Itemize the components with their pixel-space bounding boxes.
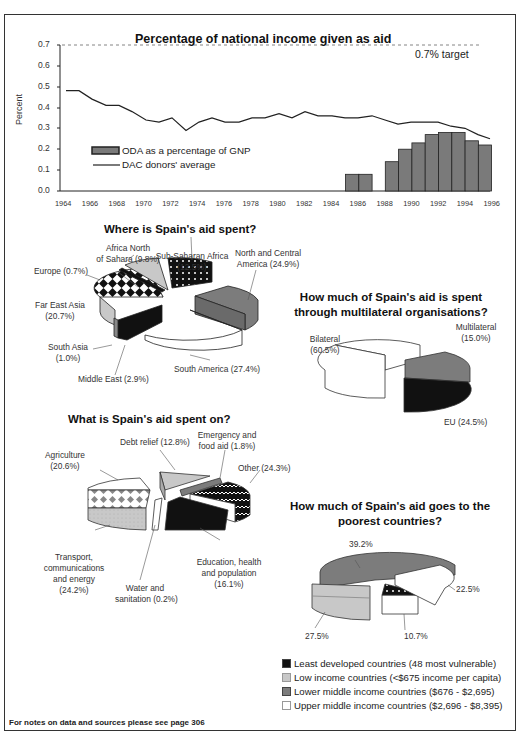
y-tick: 0.7 [38, 39, 50, 49]
label-emergency: Emergency and food aid (1.8%) [196, 430, 258, 452]
x-tick: 1980 [269, 199, 285, 208]
y-axis-label: Percent [14, 94, 24, 125]
legend-swatch [282, 659, 291, 668]
y-tick: 0.2 [38, 143, 50, 153]
x-tick: 1990 [403, 199, 419, 208]
poorest-pie [312, 552, 455, 620]
y-tick: 0.6 [38, 60, 50, 70]
label-water: Water and sanitation (0.2%) [115, 583, 175, 605]
legend-line-label: DAC donors' average [122, 159, 215, 170]
x-tick: 1974 [189, 199, 205, 208]
label-south-america: South America (27.4%) [174, 364, 260, 375]
legend-item-low-income: Low income countries (<$675 income per c… [282, 670, 503, 684]
y-tick: 0.1 [38, 164, 50, 174]
x-tick: 1986 [350, 199, 366, 208]
label-transport: Transport, communications and energy (24… [42, 552, 106, 596]
legend-bar-label: ODA as a percentage of GNP [122, 145, 251, 156]
label-eu: EU (24.5%) [444, 417, 487, 428]
legend-item-upper-middle: Upper middle income countries ($2,696 - … [282, 698, 503, 712]
legend-bar-swatch [92, 147, 119, 154]
legend-item-lower-middle: Lower middle income countries ($676 - $2… [282, 684, 503, 698]
label-multilateral: Multilateral (15.0%) [446, 322, 506, 344]
x-ticks: 1964 1966 1968 1970 1972 1974 1976 1978 … [55, 199, 500, 208]
label-sub-saharan: Sub-Saharan Africa (12.5%) [152, 251, 232, 273]
label-upper-middle: 22.5% [456, 584, 480, 595]
x-tick: 1964 [55, 199, 71, 208]
multilateral-pie-title: How much of Spain's aid is spent through… [286, 290, 496, 320]
chart-graphics [0, 0, 525, 744]
label-education: Education, health and population (16.1%) [194, 557, 264, 590]
legend-item-least-developed: Least developed countries (48 most vulne… [282, 656, 503, 670]
x-tick: 1984 [323, 199, 339, 208]
dac-average-line [66, 91, 490, 139]
x-tick: 1996 [484, 199, 500, 208]
label-north-central-america: North and Central America (24.9%) [228, 248, 308, 270]
poorest-legend: Least developed countries (48 most vulne… [282, 656, 503, 712]
spent-on-pie [88, 472, 250, 530]
label-europe: Europe (0.7%) [34, 266, 88, 277]
x-tick: 1982 [296, 199, 312, 208]
x-tick: 1966 [82, 199, 98, 208]
x-tick: 1994 [457, 199, 473, 208]
legend-swatch [282, 701, 291, 710]
y-tick: 0.4 [38, 102, 50, 112]
label-agriculture: Agriculture (20.6%) [40, 450, 90, 472]
x-tick: 1970 [135, 199, 151, 208]
x-tick: 1992 [430, 199, 446, 208]
label-low-income: 27.5% [305, 631, 329, 642]
legend-swatch [282, 673, 291, 682]
label-least-developed: 10.7% [404, 631, 428, 642]
y-tick: 0.5 [38, 81, 50, 91]
x-tick: 1972 [162, 199, 178, 208]
x-tick: 1976 [216, 199, 232, 208]
label-far-east-asia: Far East Asia (20.7%) [30, 300, 90, 322]
spent-on-pie-title: What is Spain's aid spent on? [68, 413, 230, 425]
where-pie-title: Where is Spain's aid spent? [104, 223, 256, 235]
y-axis [57, 45, 60, 191]
x-tick: 1978 [242, 199, 258, 208]
poorest-pie-title: How much of Spain's aid goes to the poor… [280, 499, 500, 529]
legend-swatch [282, 687, 291, 696]
label-bilateral: Bilateral (60.5%) [300, 334, 350, 356]
label-debt-relief: Debt relief (12.8%) [120, 437, 190, 448]
label-lower-middle: 39.2% [349, 539, 373, 550]
y-tick: 0.0 [38, 185, 50, 195]
target-label: 0.7% target [415, 48, 469, 60]
label-south-asia: South Asia (1.0%) [43, 342, 93, 364]
footer-note: For notes on data and sources please see… [9, 718, 205, 727]
oda-bars [346, 133, 492, 192]
x-tick: 1988 [376, 199, 392, 208]
y-tick: 0.3 [38, 122, 50, 132]
label-other: Other (24.3%) [238, 463, 291, 474]
x-tick: 1968 [109, 199, 125, 208]
label-middle-east: Middle East (2.9%) [78, 374, 149, 385]
